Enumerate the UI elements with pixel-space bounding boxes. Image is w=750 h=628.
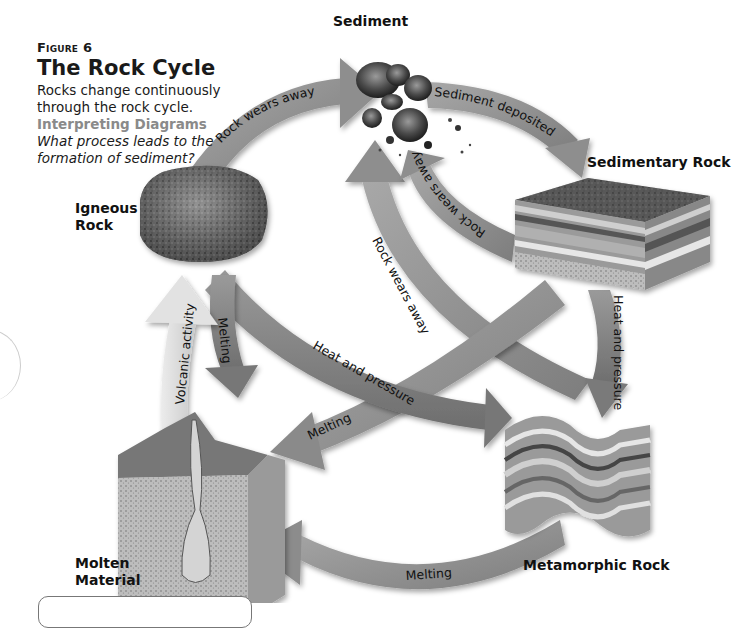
label-sedimentary-to-metamorphic: Heat and pressure: [611, 295, 626, 410]
molten-line-2: Material: [75, 572, 141, 589]
label-metamorphic-to-molten: Melting: [405, 565, 452, 583]
igneous-rock-image: [140, 166, 268, 262]
node-label-sedimentary-rock: Sedimentary Rock: [587, 154, 731, 171]
igneous-line-2: Rock: [75, 217, 138, 234]
node-label-molten-material: Molten Material: [75, 555, 141, 589]
figure-caption: Figure 6 The Rock Cycle Rocks change con…: [37, 40, 257, 167]
molten-material-image: [118, 412, 285, 603]
interpreting-diagrams-label: Interpreting Diagrams: [37, 116, 257, 133]
figure-description: Rocks change continuously through the ro…: [37, 82, 257, 116]
figure-title: The Rock Cycle: [37, 56, 257, 80]
node-label-sediment: Sediment: [333, 13, 408, 30]
metamorphic-rock-image: [505, 416, 650, 536]
answer-box-outline: [38, 596, 252, 628]
molten-line-1: Molten: [75, 555, 141, 572]
node-label-metamorphic-rock: Metamorphic Rock: [523, 557, 670, 574]
node-label-igneous-rock: Igneous Rock: [75, 200, 138, 234]
igneous-line-1: Igneous: [75, 200, 138, 217]
arrow-sediment-to-sedimentary: [425, 82, 590, 178]
label-sedimentary-to-sediment: Rock wears away: [407, 148, 488, 241]
sedimentary-rock-image: [515, 178, 710, 290]
figure-question: What process leads to the formation of s…: [37, 133, 257, 167]
figure-label: Figure 6: [37, 40, 257, 55]
